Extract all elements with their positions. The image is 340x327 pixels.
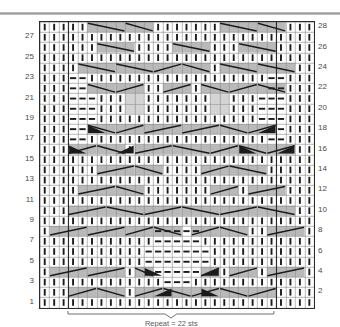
top-divider-rule [0,12,340,15]
row-number-16: 16 [318,145,340,153]
row-number-5: 5 [6,257,34,265]
row-number-20: 20 [318,104,340,112]
row-number-19: 19 [6,114,34,122]
row-number-13: 13 [6,175,34,183]
row-number-18: 18 [318,124,340,132]
row-number-12: 12 [318,185,340,193]
repeat-bracket-icon [67,310,275,319]
row-number-1: 1 [6,298,34,306]
row-number-27: 27 [6,32,34,40]
row-number-9: 9 [6,216,34,224]
row-number-2: 2 [318,287,340,295]
chart-grid-canvas [40,22,314,308]
row-number-21: 21 [6,94,34,102]
chart-grid [39,21,315,309]
row-number-25: 25 [6,53,34,61]
row-number-10: 10 [318,206,340,214]
row-number-8: 8 [318,226,340,234]
row-number-26: 26 [318,43,340,51]
row-number-7: 7 [6,236,34,244]
row-number-22: 22 [318,83,340,91]
row-number-11: 11 [6,196,34,204]
row-number-4: 4 [318,267,340,275]
row-number-23: 23 [6,73,34,81]
row-number-6: 6 [318,247,340,255]
row-number-15: 15 [6,155,34,163]
row-number-24: 24 [318,63,340,71]
row-number-17: 17 [6,134,34,142]
row-number-28: 28 [318,22,340,30]
row-number-14: 14 [318,165,340,173]
row-number-3: 3 [6,277,34,285]
repeat-bracket-label: Repeat = 22 sts [67,319,275,327]
knitting-chart: 13579111315171921232527 2468101214161820… [0,18,340,318]
